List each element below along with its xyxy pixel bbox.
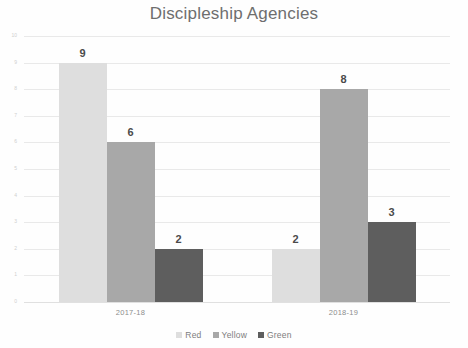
bar-red-2017-18[interactable] [59,63,107,302]
gridline [24,36,450,37]
y-axis-tick-label: 2 [0,246,17,251]
legend-swatch-green-icon [258,332,264,338]
y-axis-tick-label: 1 [0,272,17,277]
bar-value-label: 6 [107,127,155,138]
legend-swatch-yellow-icon [213,332,219,338]
bar-green-2018-19[interactable] [368,222,416,302]
bar-value-label: 2 [272,234,320,245]
chart-title: Discipleship Agencies [0,4,468,24]
y-axis-tick-label: 8 [0,86,17,91]
y-axis-tick-label: 0 [0,299,17,304]
legend-label: Red [185,330,201,340]
bar-yellow-2017-18[interactable] [107,142,155,302]
y-axis-tick-label: 4 [0,193,17,198]
plot-area: 962283 [24,36,450,302]
y-axis-tick-label: 9 [0,60,17,65]
bar-yellow-2018-19[interactable] [320,89,368,302]
x-axis-category-label: 2017-18 [24,308,237,317]
chart-legend: RedYellowGreen [0,330,468,340]
bar-red-2018-19[interactable] [272,249,320,302]
x-axis-category-label: 2018-19 [237,308,450,317]
y-axis-tick-label: 6 [0,139,17,144]
legend-label: Yellow [222,330,247,340]
gridline [24,302,450,303]
bar-value-label: 9 [59,48,107,59]
legend-item-green[interactable]: Green [258,330,292,340]
y-axis-tick-label: 7 [0,113,17,118]
legend-item-yellow[interactable]: Yellow [213,330,247,340]
y-axis-tick-label: 10 [0,33,17,38]
legend-swatch-red-icon [176,332,182,338]
bar-value-label: 3 [368,207,416,218]
chart-container: Discipleship Agencies 012345678910 96228… [0,0,468,348]
legend-item-red[interactable]: Red [176,330,201,340]
y-axis-tick-label: 5 [0,166,17,171]
bar-value-label: 8 [320,74,368,85]
y-axis-tick-label: 3 [0,219,17,224]
bar-value-label: 2 [155,234,203,245]
legend-label: Green [267,330,292,340]
bar-green-2017-18[interactable] [155,249,203,302]
